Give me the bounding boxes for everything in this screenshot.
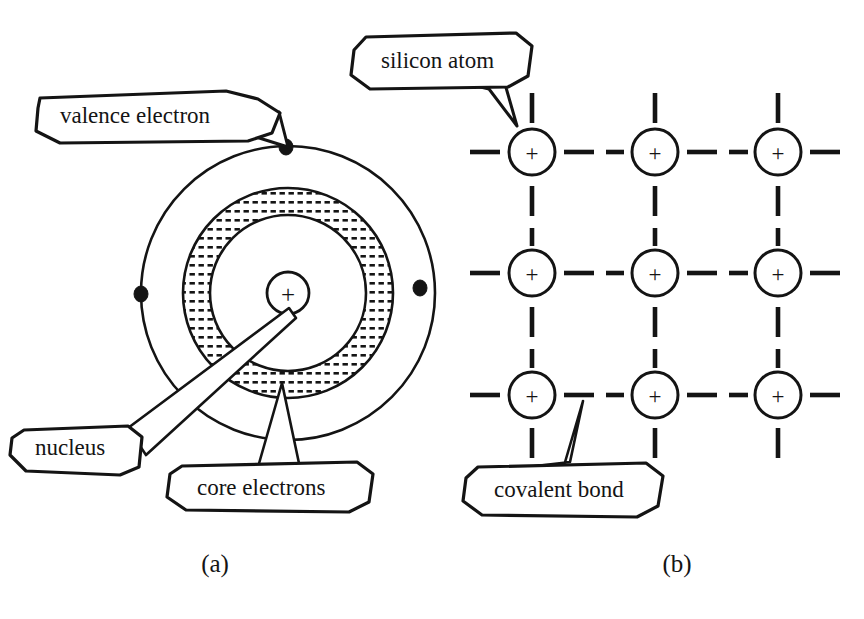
lattice-atom-r1c3: +	[755, 129, 801, 175]
panel-a-atom-diagram: + valence electron nucleus	[10, 91, 435, 578]
covalent-bond-label: covalent bond	[494, 477, 624, 502]
lattice-atom-r3c3: +	[755, 372, 801, 418]
core-electrons-label: core electrons	[197, 475, 325, 500]
semiconductor-figure: + valence electron nucleus	[0, 0, 864, 619]
nucleus-plus-symbol: +	[281, 281, 295, 308]
valence-electron-dot-left	[134, 286, 148, 302]
lattice-atom-r1c2: +	[632, 129, 678, 175]
lattice-atom-plus-symbol: +	[772, 262, 785, 287]
panel-b-lattice-diagram: + + + + +	[351, 33, 840, 578]
nucleus-label: nucleus	[35, 435, 105, 460]
lattice-atom-r1c1: +	[509, 129, 555, 175]
lattice-atom-plus-symbol: +	[649, 384, 662, 409]
panel-a-caption: (a)	[201, 550, 229, 578]
lattice-atom-plus-symbol: +	[526, 141, 539, 166]
lattice-atoms: + + + + +	[509, 129, 801, 418]
valence-electron-label: valence electron	[60, 103, 211, 128]
figure-root: + valence electron nucleus	[0, 0, 864, 619]
lattice-atom-plus-symbol: +	[649, 141, 662, 166]
lattice-atom-r2c3: +	[755, 250, 801, 296]
callout-silicon-atom[interactable]: silicon atom	[351, 33, 532, 126]
silicon-atom-pointer	[468, 84, 517, 126]
lattice-atom-plus-symbol: +	[526, 262, 539, 287]
lattice-atom-plus-symbol: +	[526, 384, 539, 409]
callout-valence-electron[interactable]: valence electron	[36, 91, 288, 147]
lattice-atom-plus-symbol: +	[649, 262, 662, 287]
lattice-atom-r2c2: +	[632, 250, 678, 296]
lattice-atom-r3c2: +	[632, 372, 678, 418]
valence-electron-dot-right	[413, 280, 427, 296]
lattice-atom-plus-symbol: +	[772, 141, 785, 166]
lattice-atom-plus-symbol: +	[772, 384, 785, 409]
lattice-atom-r3c1: +	[509, 372, 555, 418]
silicon-atom-label: silicon atom	[381, 48, 494, 73]
lattice-atom-r2c1: +	[509, 250, 555, 296]
panel-b-caption: (b)	[662, 550, 691, 578]
callout-covalent-bond[interactable]: covalent bond	[463, 401, 663, 517]
